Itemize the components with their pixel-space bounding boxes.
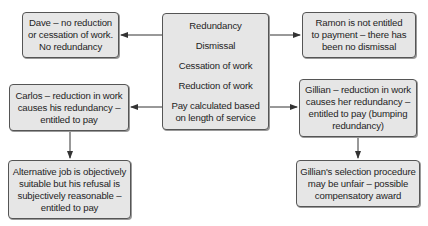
gillian-line-2: causes her redundancy – <box>306 96 410 108</box>
concept-pay-line-2: on length of service <box>171 112 259 124</box>
concept-reduction-of-work: Reduction of work <box>178 80 252 92</box>
dave-line-2: or cessation of work. <box>28 29 113 41</box>
carlos-line-3: entitled to pay <box>40 114 98 126</box>
ramon-line-3: been no dismissal <box>322 41 396 53</box>
dave-line-3: No redundancy <box>39 41 102 53</box>
gillian-box: Gillian – reduction in work causes her r… <box>299 79 417 137</box>
alt-job-line-1: Alternative job is objectively <box>13 166 126 178</box>
ramon-box: Ramon is not entitled to payment – there… <box>302 12 416 58</box>
ramon-line-2: to payment – there has <box>312 29 407 41</box>
gillian-line-4: redundancy) <box>332 120 384 132</box>
gillian-line-1: Gillian – reduction in work <box>305 84 411 96</box>
center-concepts-box: Redundancy Dismissal Cessation of work R… <box>162 13 269 130</box>
concept-pay-line-1: Pay calculated based <box>171 100 259 112</box>
concept-pay-calculation: Pay calculated based on length of servic… <box>171 100 259 124</box>
gillian-line-3: entitled to pay (bumping <box>309 108 408 120</box>
alternative-job-box: Alternative job is objectively suitable … <box>8 160 131 219</box>
concept-dismissal: Dismissal <box>196 40 236 52</box>
carlos-line-2: causes his redundancy – <box>18 102 121 114</box>
concept-cessation-of-work: Cessation of work <box>179 60 253 72</box>
carlos-line-1: Carlos – reduction in work <box>15 90 122 102</box>
dave-line-1: Dave – no reduction <box>29 17 112 29</box>
gillian-selection-line-1: Gillian's selection procedure <box>300 166 415 178</box>
gillian-selection-line-2: may be unfair – possible <box>308 178 408 190</box>
ramon-line-1: Ramon is not entitled <box>316 17 403 29</box>
concept-redundancy: Redundancy <box>189 20 241 32</box>
dave-box: Dave – no reduction or cessation of work… <box>22 12 119 58</box>
gillian-selection-box: Gillian's selection procedure may be unf… <box>296 160 420 207</box>
alt-job-line-3: subjectively reasonable – <box>18 190 122 202</box>
carlos-box: Carlos – reduction in work causes his re… <box>9 84 129 131</box>
alt-job-line-2: suitable but his refusal is <box>19 178 120 190</box>
gillian-selection-line-3: compensatory award <box>315 190 401 202</box>
alt-job-line-4: entitled to pay <box>41 202 99 214</box>
